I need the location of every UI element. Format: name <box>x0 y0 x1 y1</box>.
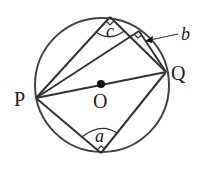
circle-theorem-diagram: P Q O c b a <box>0 0 208 170</box>
pointer-line-b <box>150 34 178 40</box>
label-o: O <box>93 90 107 112</box>
label-angle-c: c <box>106 21 114 41</box>
segment-p-a <box>36 98 101 153</box>
label-angle-a: a <box>95 126 104 146</box>
label-angle-b: b <box>181 24 190 44</box>
label-q: Q <box>171 62 186 84</box>
label-p: P <box>14 88 25 110</box>
segment-a-q <box>101 72 166 153</box>
centre-dot <box>97 80 105 88</box>
